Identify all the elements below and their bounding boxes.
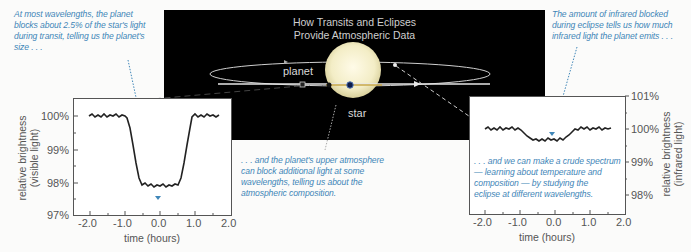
y-tick-label: 98%	[631, 189, 653, 201]
annotation-line: eclipse at different wavelengths.	[474, 189, 621, 200]
annotation-line: — learning about temperature and	[474, 167, 621, 178]
annotation-line: composition — by studying the	[474, 178, 621, 189]
annotation-line: . . . and we can make a crude spectrum	[474, 156, 621, 167]
x-tick-label: 1.0	[581, 216, 596, 228]
x-tick-label: 2.0	[616, 216, 631, 228]
y-tick-label: 100%	[631, 123, 659, 135]
x-tick-label: 0.0	[546, 216, 561, 228]
y-tick-label: 99%	[631, 156, 653, 168]
x-axis-title: time (hours)	[519, 231, 575, 243]
x-tick-label: -1.0	[508, 216, 527, 228]
annotation-crude-spectrum: . . . and we can make a crude spectrum —…	[474, 156, 621, 200]
pointer-arrow-icon	[549, 132, 555, 136]
y-axis-title-line2: (infrared light)	[672, 104, 684, 204]
y-axis-title-line1: relative brightness	[660, 104, 672, 204]
y-tick-label: 101%	[631, 90, 659, 102]
x-tick-label: -2.0	[473, 216, 492, 228]
infrared-light-curve	[485, 127, 611, 141]
eclipse-chart	[0, 0, 691, 252]
y-axis-title: relative brightness (infrared light)	[660, 104, 684, 204]
